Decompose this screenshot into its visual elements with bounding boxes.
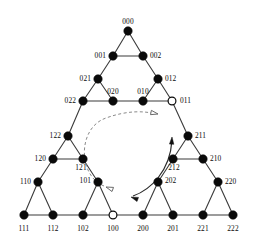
node-label-012: 012 xyxy=(165,74,177,83)
node-label-010: 010 xyxy=(137,87,149,96)
node-label-121: 121 xyxy=(75,163,87,172)
dashed-transfer-arc-start-arrowhead xyxy=(106,187,114,192)
graph-node-001[interactable] xyxy=(109,52,117,60)
dashed-transfer-arc xyxy=(84,112,156,186)
graph-node-101[interactable] xyxy=(94,178,102,186)
graph-edge xyxy=(24,182,38,215)
graph-edge xyxy=(172,101,188,136)
graph-node-221[interactable] xyxy=(199,211,207,219)
node-label-020: 020 xyxy=(107,87,119,96)
graph-node-102[interactable] xyxy=(79,211,87,219)
graph-edge xyxy=(158,182,173,215)
graph-node-201[interactable] xyxy=(169,211,177,219)
graph-node-200[interactable] xyxy=(139,211,147,219)
graph-node-122[interactable] xyxy=(64,132,72,140)
graph-node-212[interactable] xyxy=(169,155,177,163)
node-label-002: 002 xyxy=(150,51,162,60)
node-label-000: 000 xyxy=(122,17,134,26)
node-label-210: 210 xyxy=(210,154,222,163)
node-label-220: 220 xyxy=(225,177,237,186)
graph-node-010[interactable] xyxy=(139,97,147,105)
node-label-201: 201 xyxy=(167,224,179,233)
graph-node-020[interactable] xyxy=(109,97,117,105)
node-label-111: 111 xyxy=(19,224,30,233)
graph-node-100[interactable] xyxy=(109,211,117,219)
solid-transfer-arc xyxy=(133,140,172,196)
node-label-001: 001 xyxy=(95,51,107,60)
graph-edge xyxy=(83,182,98,215)
graph-node-120[interactable] xyxy=(49,155,57,163)
graph-node-210[interactable] xyxy=(199,155,207,163)
node-label-120: 120 xyxy=(35,154,47,163)
node-label-202: 202 xyxy=(165,176,177,185)
graph-node-110[interactable] xyxy=(34,178,42,186)
node-label-100: 100 xyxy=(107,224,119,233)
dashed-transfer-arc-end-arrowhead xyxy=(151,110,159,114)
node-label-110: 110 xyxy=(20,177,31,186)
graph-node-202[interactable] xyxy=(154,178,162,186)
node-label-200: 200 xyxy=(137,224,149,233)
node-label-221: 221 xyxy=(197,224,209,233)
graph-edge xyxy=(218,182,233,215)
node-label-122: 122 xyxy=(50,131,62,140)
node-label-021: 021 xyxy=(80,74,92,83)
node-label-101: 101 xyxy=(80,176,92,185)
graph-node-012[interactable] xyxy=(154,75,162,83)
graph-canvas: 0000010020210120220200100111222111201212… xyxy=(0,0,261,241)
graph-edge xyxy=(143,182,158,215)
graph-node-121[interactable] xyxy=(79,155,87,163)
solid-transfer-arc-end-arrowhead xyxy=(169,137,173,144)
node-label-102: 102 xyxy=(77,224,89,233)
node-label-011: 011 xyxy=(180,96,191,105)
graph-node-112[interactable] xyxy=(49,211,57,219)
edges-layer xyxy=(24,31,233,215)
node-label-022: 022 xyxy=(65,96,77,105)
graph-node-222[interactable] xyxy=(229,211,237,219)
graph-node-011[interactable] xyxy=(168,97,176,105)
hanoi-sierpinski-figure: 0000010020210120220200100111222111201212… xyxy=(0,0,261,241)
node-label-211: 211 xyxy=(195,131,206,140)
node-label-112: 112 xyxy=(47,224,58,233)
labels-layer: 0000010020210120220200100111222111201212… xyxy=(19,17,239,233)
graph-edge xyxy=(38,182,53,215)
graph-node-002[interactable] xyxy=(139,52,147,60)
graph-node-000[interactable] xyxy=(124,27,132,35)
graph-node-021[interactable] xyxy=(94,75,102,83)
graph-node-220[interactable] xyxy=(214,178,222,186)
solid-transfer-arc-start-arrowhead xyxy=(131,197,139,202)
graph-node-111[interactable] xyxy=(20,211,28,219)
graph-edge xyxy=(203,182,218,215)
graph-node-211[interactable] xyxy=(184,132,192,140)
graph-edge xyxy=(68,101,83,136)
node-label-222: 222 xyxy=(227,224,239,233)
node-label-212: 212 xyxy=(168,163,180,172)
graph-node-022[interactable] xyxy=(79,97,87,105)
